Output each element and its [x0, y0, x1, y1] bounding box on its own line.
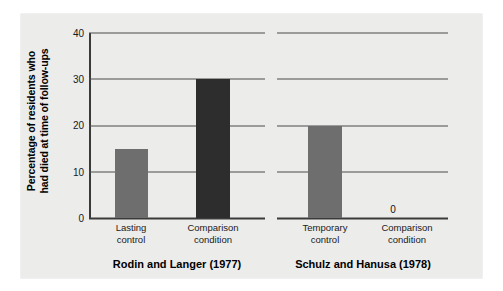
y-tick-label-10: 10 [73, 167, 84, 178]
category-labels-panel-1: Temporary control Comparison condition [277, 222, 448, 254]
y-tick-label-0: 0 [78, 213, 84, 224]
category-label-line2: control [85, 234, 177, 246]
y-tick-label-30: 30 [73, 74, 84, 85]
category-label-line2: condition [167, 234, 259, 246]
category-label-line1: Temporary [279, 222, 371, 234]
bar-temporary-control[interactable] [308, 126, 342, 219]
plot-area-panel-1: 0 [277, 33, 448, 218]
category-label-temporary-control: Temporary control [279, 222, 371, 245]
category-label-comparison-condition: Comparison condition [361, 222, 453, 245]
y-axis-tick-labels: 40 30 20 10 0 [43, 0, 88, 291]
y-tick-label-20: 20 [73, 120, 84, 131]
bar-lasting-control[interactable] [115, 149, 148, 218]
bars-layer-panel-1: 0 [277, 33, 448, 218]
bars-layer-panel-0 [89, 33, 265, 218]
category-label-lasting-control: Lasting control [85, 222, 177, 245]
category-label-line2: condition [361, 234, 453, 246]
category-label-line1: Lasting [85, 222, 177, 234]
category-label-comparison-condition: Comparison condition [167, 222, 259, 245]
category-label-line2: control [279, 234, 371, 246]
figure-root: Percentage of residents who had died at … [0, 0, 503, 291]
category-labels-panel-0: Lasting control Comparison condition [89, 222, 265, 254]
category-label-line1: Comparison [167, 222, 259, 234]
panel-title-rodin-and-langer: Rodin and Langer (1977) [113, 258, 241, 270]
y-axis-title-line1: Percentage of residents who [25, 51, 38, 191]
plot-area-panel-0 [89, 33, 265, 218]
bar-value-label-comparison-condition: 0 [390, 204, 396, 215]
category-label-line1: Comparison [361, 222, 453, 234]
panel-title-schulz-and-hanusa: Schulz and Hanusa (1978) [295, 258, 431, 270]
bar-comparison-condition[interactable] [196, 79, 230, 218]
y-tick-label-40: 40 [73, 28, 84, 39]
